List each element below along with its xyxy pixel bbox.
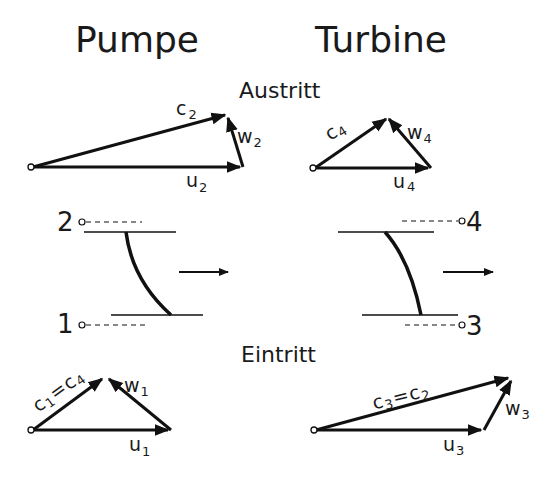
c3-equals-c2-label: c3=c2 bbox=[370, 378, 431, 415]
station-1-marker bbox=[79, 322, 85, 328]
turbine-outlet-velocity-triangle: c4 w4 u4 bbox=[310, 115, 432, 194]
velocity-triangle-diagram: Pumpe Turbine Austritt Eintritt c2 w2 u2… bbox=[0, 0, 554, 487]
pump-header: Pumpe bbox=[75, 19, 199, 60]
station-3-marker bbox=[459, 322, 465, 328]
turbine-inlet-velocity-triangle: c3=c2 w3 u3 bbox=[311, 378, 530, 458]
u2-label: u2 bbox=[186, 169, 207, 195]
pump-inlet-velocity-triangle: c1=c4 w1 u1 bbox=[28, 364, 171, 459]
pump-outlet-velocity-triangle: c2 w2 u2 bbox=[28, 97, 262, 195]
u4-label: u4 bbox=[393, 170, 415, 194]
w2-label: w2 bbox=[237, 125, 262, 150]
origin-point bbox=[28, 427, 34, 433]
origin-point bbox=[28, 164, 34, 170]
w3-label: w3 bbox=[505, 397, 530, 422]
outlet-section-label: Austritt bbox=[239, 78, 321, 103]
station-2-label: 2 bbox=[57, 207, 74, 237]
c2-vector bbox=[33, 115, 225, 167]
turbine-header: Turbine bbox=[314, 19, 447, 60]
origin-point bbox=[310, 165, 316, 171]
u1-label: u1 bbox=[129, 433, 150, 459]
c2-label: c2 bbox=[176, 97, 197, 122]
station-4-label: 4 bbox=[466, 207, 483, 237]
station-4-marker bbox=[459, 218, 465, 224]
origin-point bbox=[311, 427, 317, 433]
pump-blade-section: 2 1 bbox=[57, 207, 228, 339]
inlet-section-label: Eintritt bbox=[241, 342, 316, 367]
c4-label: c4 bbox=[320, 115, 349, 146]
turbine-blade-section: 4 3 bbox=[338, 207, 493, 341]
w4-label: w4 bbox=[407, 121, 432, 146]
w1-label: w1 bbox=[124, 374, 149, 399]
station-1-label: 1 bbox=[57, 309, 74, 339]
turbine-blade-profile bbox=[385, 232, 421, 315]
u3-label: u3 bbox=[443, 433, 464, 458]
station-3-label: 3 bbox=[466, 311, 483, 341]
pump-blade-profile bbox=[126, 232, 171, 315]
station-2-marker bbox=[79, 219, 85, 225]
